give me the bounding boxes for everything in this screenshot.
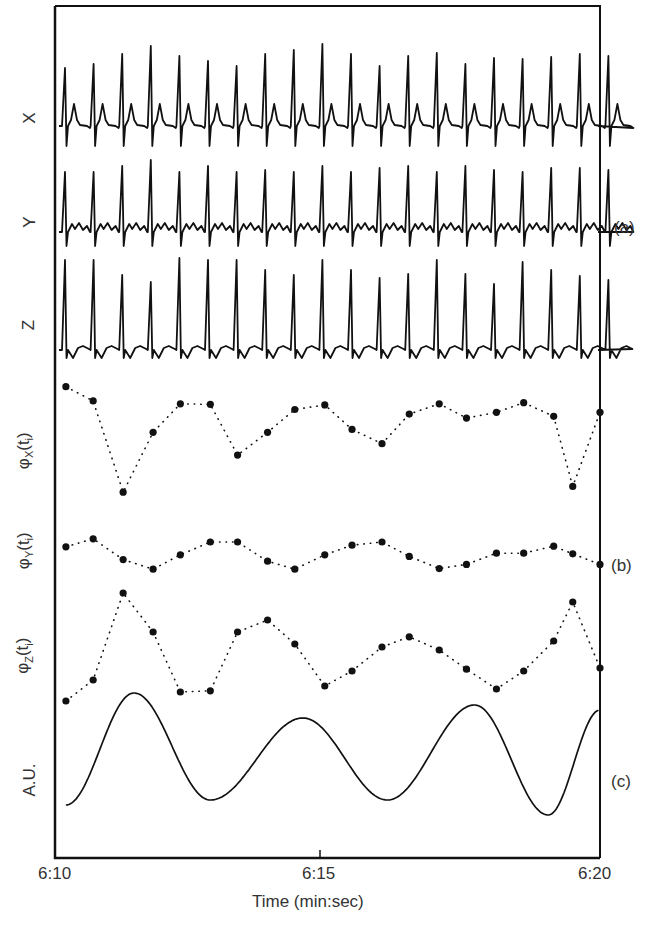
phase-point	[207, 687, 214, 694]
phase-point	[493, 409, 500, 416]
phase-point	[406, 410, 413, 417]
phase-point	[348, 426, 355, 433]
figure: X Y Z φX(ti) φY(ti) φZ(ti) A.U. (a) (b) …	[0, 0, 659, 931]
phase-point	[596, 664, 603, 671]
phase-point	[378, 643, 385, 650]
phase-point	[569, 550, 576, 557]
phase-point	[493, 550, 500, 557]
phase-series-x	[62, 383, 603, 496]
phase-point	[177, 688, 184, 695]
plot-frame	[55, 6, 600, 858]
lead-z-label: Z	[19, 320, 39, 330]
phase-point	[62, 383, 69, 390]
phase-point	[234, 628, 241, 635]
phase-scatter	[62, 383, 603, 705]
phase-point	[550, 637, 557, 644]
phase-point	[90, 676, 97, 683]
phase-point	[378, 440, 385, 447]
x-tick-615: 6:15	[302, 864, 335, 884]
x-axis-title: Time (min:sec)	[252, 892, 364, 912]
phase-point	[493, 685, 500, 692]
phase-point	[463, 561, 470, 568]
phase-point	[62, 697, 69, 704]
phase-point	[264, 429, 271, 436]
phase-point	[436, 646, 443, 653]
phase-point	[264, 616, 271, 623]
x-tick-620: 6:20	[578, 864, 611, 884]
respiration-trace	[66, 693, 599, 815]
phase-point	[520, 399, 527, 406]
phase-point	[207, 538, 214, 545]
phase-point	[463, 414, 470, 421]
lead-y-label: Y	[20, 216, 40, 227]
phase-point	[569, 483, 576, 490]
lead-x-label: X	[20, 112, 40, 123]
phase-series-z	[62, 589, 603, 704]
ecg-lead-y-trace	[59, 160, 633, 246]
phase-point	[120, 589, 127, 596]
phase-point	[207, 401, 214, 408]
phase-point	[150, 566, 157, 573]
phase-point	[550, 543, 557, 550]
phi-y-label: φY(ti)	[14, 532, 35, 569]
phase-point	[177, 400, 184, 407]
x-tick-610: 6:10	[38, 864, 71, 884]
respiration-curve	[66, 693, 599, 815]
phase-point	[569, 598, 576, 605]
panel-b-tag: (b)	[611, 556, 632, 576]
phase-point	[463, 666, 470, 673]
ecg-lead-z-trace	[59, 258, 632, 358]
phase-point	[177, 551, 184, 558]
phase-point	[378, 538, 385, 545]
phase-point	[436, 400, 443, 407]
plot-area	[0, 0, 659, 931]
phi-x-label: φX(ti)	[14, 432, 35, 469]
phase-point	[596, 409, 603, 416]
phase-point	[120, 556, 127, 563]
phi-z-label: φZ(ti)	[13, 638, 34, 674]
phase-point	[291, 566, 298, 573]
phase-point	[90, 397, 97, 404]
ecg-lead-x-trace	[59, 44, 633, 146]
phase-point	[62, 543, 69, 550]
phase-point	[321, 682, 328, 689]
phase-point	[234, 452, 241, 459]
ecg-traces	[59, 44, 633, 358]
phase-point	[436, 565, 443, 572]
phase-series-y	[62, 535, 603, 573]
phase-point	[150, 429, 157, 436]
phase-point	[321, 401, 328, 408]
phase-point	[264, 558, 271, 565]
phase-point	[90, 535, 97, 542]
phase-point	[291, 640, 298, 647]
phase-point	[348, 667, 355, 674]
phase-point	[234, 538, 241, 545]
phase-point	[120, 489, 127, 496]
phase-point	[550, 413, 557, 420]
phase-point	[321, 551, 328, 558]
phase-point	[520, 550, 527, 557]
phase-point	[406, 633, 413, 640]
panel-a-tag: (a)	[614, 218, 635, 238]
phase-point	[291, 406, 298, 413]
phase-point	[348, 542, 355, 549]
phase-point	[406, 553, 413, 560]
phase-point	[150, 628, 157, 635]
phase-point	[520, 667, 527, 674]
au-label: A.U.	[20, 763, 40, 796]
phase-point	[596, 561, 603, 568]
panel-c-tag: (c)	[611, 772, 631, 792]
